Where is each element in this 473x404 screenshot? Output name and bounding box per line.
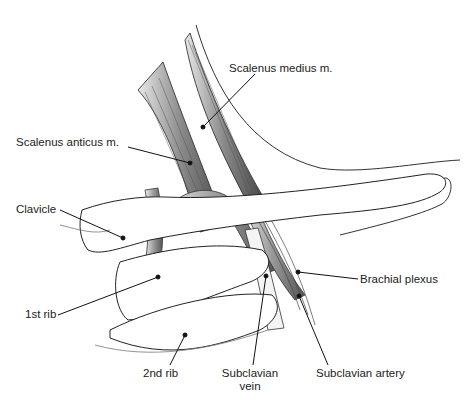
label-scalenus-medius: Scalenus medius m. — [229, 62, 333, 75]
anatomy-illustration — [0, 0, 473, 404]
label-subclavian-vein: Subclavian vein — [220, 367, 280, 393]
label-clavicle: Clavicle — [16, 203, 56, 216]
label-subclavian-artery: Subclavian artery — [316, 367, 405, 380]
label-second-rib: 2nd rib — [143, 367, 178, 380]
label-scalenus-anticus: Scalenus anticus m. — [16, 136, 119, 149]
label-brachial-plexus: Brachial plexus — [360, 273, 438, 286]
label-first-rib: 1st rib — [25, 308, 56, 321]
anatomy-figure: Scalenus medius m. Scalenus anticus m. C… — [0, 0, 473, 404]
